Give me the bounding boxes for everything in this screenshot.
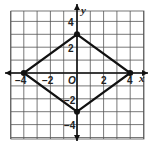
coordinate-plane: y x −4 −2 O 2 4 4 2 −2 −4 bbox=[0, 0, 152, 144]
y-axis-arrow-up-icon bbox=[74, 4, 80, 10]
y-tick-2: 2 bbox=[68, 43, 74, 54]
x-tick-neg2: −2 bbox=[42, 75, 54, 86]
x-tick-4: 4 bbox=[127, 75, 133, 86]
x-tick-2: 2 bbox=[101, 75, 107, 86]
x-axis-label: x bbox=[138, 72, 145, 84]
vertex-point bbox=[74, 31, 80, 37]
y-tick-neg2: −2 bbox=[64, 95, 76, 106]
y-tick-neg4: −4 bbox=[64, 120, 76, 131]
origin-label: O bbox=[68, 75, 76, 86]
vertex-point bbox=[74, 109, 80, 115]
y-axis-label: y bbox=[79, 4, 86, 16]
x-tick-neg4: −4 bbox=[15, 75, 27, 86]
y-axis-arrow-down-icon bbox=[74, 135, 80, 141]
y-tick-4: 4 bbox=[68, 17, 74, 28]
x-axis-arrow-left-icon bbox=[5, 70, 11, 76]
